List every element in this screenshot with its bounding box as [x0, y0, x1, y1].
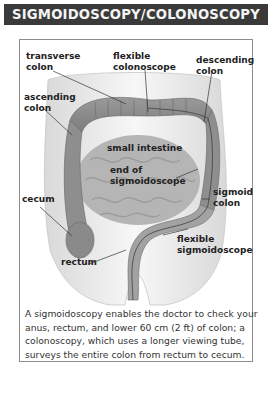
label-small-intestine: small intestine: [107, 143, 182, 154]
label-rectum: rectum: [61, 257, 97, 268]
caption: A sigmoidoscopy enables the doctor to ch…: [25, 307, 250, 361]
caption-line: A sigmoidoscopy enables the doctor to ch…: [25, 307, 250, 321]
label-cecum: cecum: [22, 194, 55, 205]
label-flexible-sigmoidoscope: flexiblesigmoidoscope: [177, 234, 253, 256]
label-ascending-colon: ascendingcolon: [24, 92, 76, 114]
label-flexible-colonoscope: flexiblecolonoscope: [113, 51, 176, 73]
label-descending-colon: descendingcolon: [196, 55, 254, 77]
label-transverse-colon: transversecolon: [26, 51, 80, 73]
cecum: [66, 222, 94, 258]
caption-line: colonoscopy, which uses a longer viewing…: [25, 334, 250, 348]
label-end-of-sigmoidoscope: end ofsigmoidoscope: [110, 165, 186, 187]
caption-line: surveys the entire colon from rectum to …: [25, 348, 250, 362]
caption-line: anus, rectum, and lower 60 cm (2 ft) of …: [25, 321, 250, 335]
label-sigmoid-colon: sigmoidcolon: [213, 187, 253, 209]
